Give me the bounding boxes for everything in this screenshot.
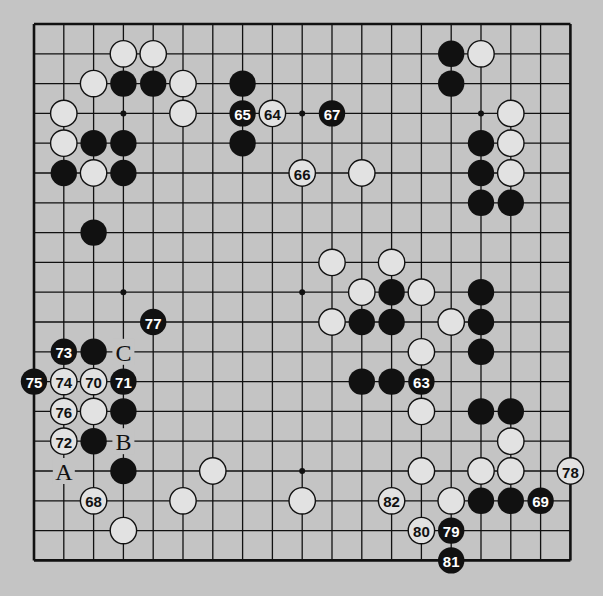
star-point (120, 289, 126, 295)
move-number: 75 (26, 374, 43, 391)
black-stone (110, 70, 136, 96)
black-stone (378, 279, 404, 305)
move-number: 67 (324, 106, 341, 123)
move-number: 78 (562, 464, 579, 481)
move-number: 64 (264, 106, 281, 123)
black-stone (468, 488, 494, 514)
move-82: 82 (378, 488, 404, 514)
star-point (299, 289, 305, 295)
black-stone (498, 190, 524, 216)
white-stone (498, 458, 524, 484)
white-stone (170, 488, 196, 514)
move-67: 67 (319, 100, 345, 126)
white-stone (408, 398, 434, 424)
black-stone (468, 398, 494, 424)
move-69: 69 (527, 488, 553, 514)
go-board: 6364656667686970717273747576777879808182… (0, 0, 603, 596)
black-stone (438, 70, 464, 96)
move-73: 73 (51, 339, 77, 365)
move-80: 80 (408, 517, 434, 543)
move-78: 78 (557, 458, 583, 484)
move-number: 69 (532, 493, 549, 510)
black-stone (438, 41, 464, 67)
move-70: 70 (80, 368, 106, 394)
move-number: 73 (55, 344, 72, 361)
move-63: 63 (408, 368, 434, 394)
white-stone (498, 428, 524, 454)
white-stone (319, 309, 345, 335)
move-76: 76 (51, 398, 77, 424)
black-stone (378, 368, 404, 394)
move-66: 66 (289, 160, 315, 186)
black-stone (468, 160, 494, 186)
move-number: 71 (115, 374, 132, 391)
move-number: 77 (145, 315, 162, 332)
move-number: 68 (85, 493, 102, 510)
point-label-a: A (55, 459, 73, 485)
move-72: 72 (51, 428, 77, 454)
white-stone (498, 130, 524, 156)
white-stone (80, 160, 106, 186)
white-stone (408, 279, 434, 305)
star-point (299, 110, 305, 116)
white-stone (378, 249, 404, 275)
white-stone (80, 70, 106, 96)
white-stone (468, 41, 494, 67)
white-stone (170, 100, 196, 126)
black-stone (80, 428, 106, 454)
black-stone (229, 130, 255, 156)
white-stone (438, 488, 464, 514)
point-label-b: B (115, 429, 131, 455)
black-stone (468, 130, 494, 156)
white-stone (468, 458, 494, 484)
white-stone (140, 41, 166, 67)
black-stone (468, 309, 494, 335)
move-number: 81 (443, 553, 460, 570)
white-stone (319, 249, 345, 275)
white-stone (498, 160, 524, 186)
black-stone (80, 339, 106, 365)
move-64: 64 (259, 100, 285, 126)
white-stone (498, 100, 524, 126)
move-79: 79 (438, 517, 464, 543)
white-stone (80, 398, 106, 424)
black-stone (80, 219, 106, 245)
white-stone (51, 130, 77, 156)
black-stone (110, 398, 136, 424)
move-number: 79 (443, 523, 460, 540)
move-number: 80 (413, 523, 430, 540)
black-stone (229, 70, 255, 96)
star-point (120, 110, 126, 116)
move-74: 74 (51, 368, 77, 394)
white-stone (289, 488, 315, 514)
black-stone (110, 160, 136, 186)
star-point (478, 110, 484, 116)
move-71: 71 (110, 368, 136, 394)
move-number: 63 (413, 374, 430, 391)
white-stone (349, 160, 375, 186)
move-number: 76 (55, 404, 72, 421)
black-stone (468, 279, 494, 305)
white-stone (170, 70, 196, 96)
move-75: 75 (21, 368, 47, 394)
white-stone (408, 339, 434, 365)
black-stone (498, 488, 524, 514)
white-stone (408, 458, 434, 484)
black-stone (378, 309, 404, 335)
black-stone (51, 160, 77, 186)
black-stone (110, 458, 136, 484)
white-stone (110, 41, 136, 67)
black-stone (349, 368, 375, 394)
move-68: 68 (80, 488, 106, 514)
black-stone (80, 130, 106, 156)
black-stone (140, 70, 166, 96)
black-stone (110, 130, 136, 156)
move-number: 82 (383, 493, 400, 510)
move-65: 65 (229, 100, 255, 126)
move-number: 74 (55, 374, 72, 391)
star-point (299, 468, 305, 474)
white-stone (51, 100, 77, 126)
move-81: 81 (438, 547, 464, 573)
move-number: 70 (85, 374, 102, 391)
move-number: 65 (234, 106, 251, 123)
